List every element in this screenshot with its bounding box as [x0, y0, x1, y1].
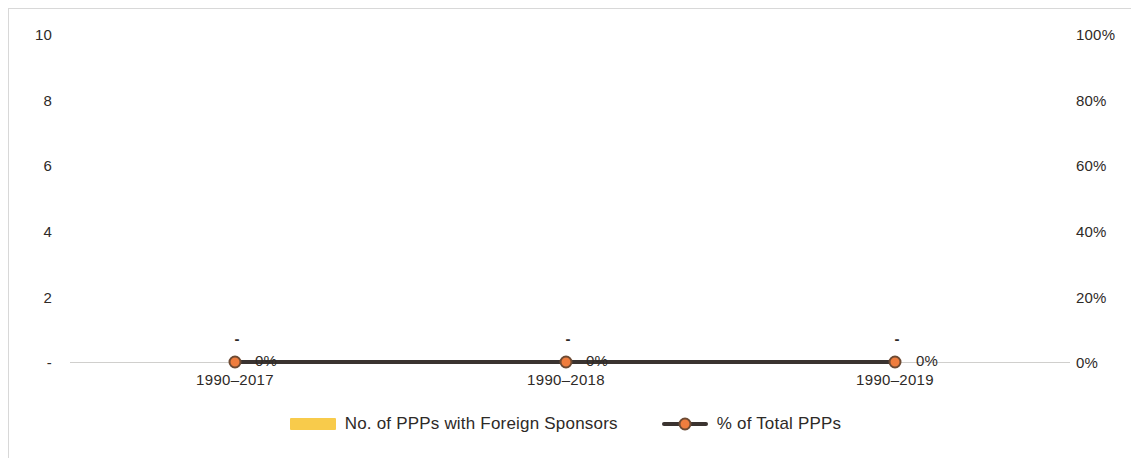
y-axis-left-tick: 8: [0, 92, 52, 109]
x-axis-category-label: 1990–2017: [135, 371, 335, 388]
data-point-marker[interactable]: [889, 356, 902, 369]
y-axis-right-tick: 40%: [1076, 223, 1131, 240]
legend-item-pct-of-total-ppps[interactable]: % of Total PPPs: [662, 414, 842, 434]
y-axis-left-tick: 4: [0, 223, 52, 240]
legend-item-label: % of Total PPPs: [717, 414, 842, 434]
bar-value-label: -: [867, 330, 927, 347]
y-axis-left-tick: -: [0, 354, 52, 371]
chart-legend: No. of PPPs with Foreign Sponsors % of T…: [0, 414, 1131, 434]
legend-item-label: No. of PPPs with Foreign Sponsors: [345, 414, 618, 434]
legend-line-marker-swatch-icon: [662, 417, 708, 431]
y-axis-left-tick: 6: [0, 157, 52, 174]
chart-container: 10 8 6 4 2 - 100% 80% 60% 40% 20% 0% - -…: [0, 0, 1131, 458]
point-value-label: 0%: [255, 352, 277, 369]
x-axis-category-label: 1990–2019: [795, 371, 995, 388]
bar-value-label: -: [207, 330, 267, 347]
point-value-label: 0%: [916, 352, 938, 369]
legend-bar-swatch-icon: [290, 418, 336, 430]
bar-value-label: -: [538, 330, 598, 347]
y-axis-left-tick: 10: [0, 26, 52, 43]
legend-marker-dot-icon: [678, 418, 691, 431]
chart-frame-top-rule: [8, 8, 1131, 9]
plot-area: [70, 28, 1070, 374]
x-axis-category-label: 1990–2018: [466, 371, 666, 388]
y-axis-left-tick: 2: [0, 289, 52, 306]
point-value-label: 0%: [586, 352, 608, 369]
y-axis-right-tick: 80%: [1076, 92, 1131, 109]
legend-item-no-of-ppps-with-foreign-sponsors[interactable]: No. of PPPs with Foreign Sponsors: [290, 414, 618, 434]
y-axis-right-tick: 100%: [1076, 26, 1131, 43]
y-axis-right-tick: 60%: [1076, 157, 1131, 174]
y-axis-right-tick: 20%: [1076, 289, 1131, 306]
data-point-marker[interactable]: [560, 356, 573, 369]
y-axis-right-tick: 0%: [1076, 354, 1131, 371]
data-point-marker[interactable]: [229, 356, 242, 369]
